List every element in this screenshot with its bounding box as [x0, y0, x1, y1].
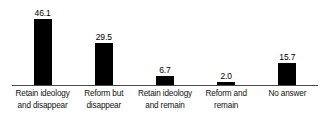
bar-value-label: 2.0 [220, 71, 232, 81]
category-label-line: remain [196, 100, 257, 112]
category-label-line: Reform but [73, 88, 134, 100]
category-labels: Retain ideology and disappear Reform but… [12, 88, 318, 122]
bar-group: 15.7 [257, 0, 318, 85]
bar-group: 46.1 [12, 0, 73, 85]
plot-area: 46.1 29.5 6.7 2.0 15.7 [0, 0, 329, 86]
bar-group: 29.5 [73, 0, 134, 85]
bar-value-label: 46.1 [35, 8, 51, 18]
category-label-line: Retain ideology [12, 88, 73, 100]
category-label-line: No answer [257, 88, 318, 100]
bar [278, 63, 296, 86]
category-label-line: disappear [73, 100, 134, 112]
category-label: Reform and remain [196, 88, 257, 111]
x-axis-line [12, 85, 318, 86]
bar-chart: 46.1 29.5 6.7 2.0 15.7 Re [0, 0, 329, 124]
bar-value-label: 15.7 [279, 52, 295, 62]
category-label: Reform but disappear [73, 88, 134, 111]
bar-group: 2.0 [196, 0, 257, 85]
category-label: No answer [257, 88, 318, 100]
category-label-line: and remain [134, 100, 195, 112]
category-label: Retain ideology and remain [134, 88, 195, 111]
category-label: Retain ideology and disappear [12, 88, 73, 111]
bar [34, 19, 52, 85]
bar-value-label: 29.5 [96, 32, 112, 42]
bar-group: 6.7 [134, 0, 195, 85]
bars-layer: 46.1 29.5 6.7 2.0 15.7 [12, 0, 318, 85]
category-label-line: and disappear [12, 100, 73, 112]
category-label-line: Reform and [196, 88, 257, 100]
bar-value-label: 6.7 [159, 65, 171, 75]
bar [95, 43, 113, 85]
category-label-line: Retain ideology [134, 88, 195, 100]
